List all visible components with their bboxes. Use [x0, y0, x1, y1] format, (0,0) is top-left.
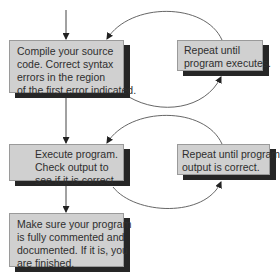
box-line: of the first error indicated.	[17, 84, 118, 97]
arc-repeat-to-compile	[107, 11, 222, 40]
box-execute: Execute program. Check output to see if …	[9, 144, 124, 181]
box-line: errors in the region	[17, 71, 118, 84]
box-line: program executes.	[184, 57, 257, 70]
box-line: Repeat until program	[182, 148, 264, 161]
box-finish: Make sure your program is fully commente…	[9, 213, 124, 267]
box-repeat-compile: Repeat until program executes.	[177, 40, 263, 71]
box-line: see if it is correct.	[35, 174, 118, 187]
box-line: Make sure your program	[17, 218, 118, 231]
arc-compile-to-repeat	[129, 77, 221, 107]
box-line: are finished.	[17, 257, 118, 270]
box-repeat-execute: Repeat until program output is correct.	[177, 144, 270, 175]
box-line: Compile your source	[17, 45, 118, 58]
box-line: Repeat until	[184, 44, 257, 57]
box-line: documented. If it is, you	[17, 244, 118, 257]
box-line: code. Correct syntax	[17, 58, 118, 71]
box-line: is fully commented and	[17, 231, 118, 244]
box-line: output is correct.	[182, 161, 264, 174]
box-compile: Compile your source code. Correct syntax…	[9, 40, 124, 93]
box-line: Execute program.	[35, 148, 118, 161]
arc-repeat-to-execute	[107, 115, 222, 144]
arc-execute-to-repeat	[113, 182, 221, 209]
box-line: Check output to	[35, 161, 118, 174]
